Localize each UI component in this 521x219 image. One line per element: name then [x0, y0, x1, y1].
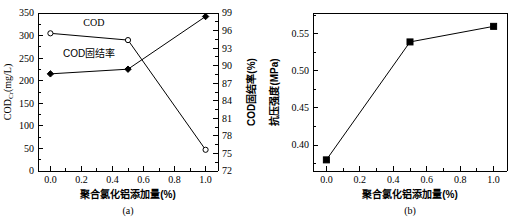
figure-container: 050100150200250300350 727578818487909396…	[0, 0, 521, 219]
y-tick-label: 0	[29, 165, 34, 176]
x-tick-label: 0.8	[454, 174, 467, 185]
y2-tick-label: 96	[222, 25, 232, 36]
data-point-marker	[323, 157, 329, 163]
chart-b-svg: 0.400.450.500.55 0.00.20.40.60.81.0 抗压强度…	[260, 0, 521, 219]
data-point-marker	[125, 37, 130, 42]
y2-tick-label: 99	[222, 7, 232, 18]
y-tick-label: 200	[19, 75, 34, 86]
x-axis-title-a: 聚合氯化铝添加量(%)	[79, 188, 176, 200]
data-series-group-b	[323, 23, 496, 163]
series-annotation-cod-rate: COD固结率	[63, 47, 115, 59]
data-point-marker	[203, 147, 208, 152]
x-tick-label: 0.6	[420, 174, 433, 185]
data-point-marker	[47, 71, 53, 77]
y-axis-title-b: 抗压强度(MPa)	[268, 58, 280, 125]
y-tick-label: 50	[24, 143, 34, 154]
data-point-marker	[491, 23, 497, 29]
series-line-0	[326, 26, 493, 160]
y-axis-ticks-a: 050100150200250300350	[19, 7, 43, 176]
y2-tick-label: 72	[222, 165, 232, 176]
x-tick-label: 0.8	[168, 174, 181, 185]
chart-panel-a: 050100150200250300350 727578818487909396…	[0, 0, 260, 219]
plot-frame-a	[38, 13, 218, 171]
y2-tick-label: 90	[222, 60, 232, 71]
y2-axis-title-a: COD固结率(%)	[245, 58, 257, 126]
y2-tick-label: 84	[222, 95, 232, 106]
y2-tick-label: 78	[222, 130, 232, 141]
x-tick-label: 0.0	[320, 174, 333, 185]
data-point-marker	[407, 39, 413, 45]
y-tick-label: 0.40	[292, 139, 310, 150]
y-tick-label: 100	[19, 120, 34, 131]
x-axis-ticks-a: 0.00.20.40.60.81.0	[44, 166, 212, 185]
x-tick-label: 1.0	[487, 174, 500, 185]
y-tick-label: 0.55	[292, 28, 310, 39]
series-line-1	[50, 17, 205, 74]
data-series-group-a	[47, 13, 209, 152]
y-tick-label: 150	[19, 98, 34, 109]
y2-tick-label: 81	[222, 113, 232, 124]
x-tick-label: 0.4	[106, 174, 119, 185]
y-tick-label: 350	[19, 7, 34, 18]
y2-tick-label: 93	[222, 43, 232, 54]
data-point-marker	[125, 66, 131, 72]
x-tick-label: 0.6	[137, 174, 150, 185]
x-tick-label: 0.0	[44, 174, 57, 185]
chart-panel-b: 0.400.450.500.55 0.00.20.40.60.81.0 抗压强度…	[260, 0, 521, 219]
panel-caption-b: (b)	[404, 205, 416, 217]
data-point-marker	[48, 31, 53, 36]
y-tick-label: 300	[19, 30, 34, 41]
y-axis-title-a: CODCr(mg/L)	[2, 64, 15, 120]
y2-tick-label: 75	[222, 148, 232, 159]
series-annotation-cod: COD	[83, 17, 104, 28]
x-tick-label: 0.2	[354, 174, 367, 185]
y2-tick-label: 87	[222, 78, 232, 89]
x-axis-title-b: 聚合氯化铝添加量(%)	[361, 188, 458, 200]
chart-a-svg: 050100150200250300350 727578818487909396…	[0, 0, 260, 219]
panel-caption-a: (a)	[122, 205, 133, 217]
y-tick-label: 250	[19, 53, 34, 64]
y-tick-label: 0.50	[292, 65, 310, 76]
y-tick-label: 0.45	[292, 102, 310, 113]
x-tick-label: 0.4	[387, 174, 400, 185]
x-tick-label: 0.2	[75, 174, 88, 185]
y2-axis-ticks-a: 72757881848790939699	[213, 7, 232, 176]
x-axis-ticks-b: 0.00.20.40.60.81.0	[320, 166, 500, 185]
plot-frame-b	[313, 13, 507, 171]
y-axis-ticks-b: 0.400.450.500.55	[292, 15, 319, 163]
data-point-marker	[202, 13, 208, 19]
x-tick-label: 1.0	[199, 174, 212, 185]
